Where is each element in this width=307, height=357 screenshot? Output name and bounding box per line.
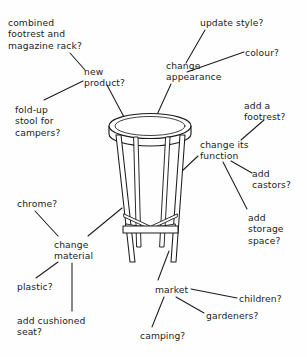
stool-footrest-bar	[123, 226, 178, 233]
node-gardeners[interactable]: gardeners?	[206, 310, 276, 321]
node-combined-footrest[interactable]: combined footrest and magazine rack?	[8, 17, 108, 51]
node-children[interactable]: children?	[239, 293, 301, 304]
node-change-material[interactable]: change material	[54, 239, 114, 262]
node-add-storage-space[interactable]: add storage space?	[248, 212, 303, 246]
node-plastic[interactable]: plastic?	[17, 281, 72, 292]
stool-leg-front-right	[171, 135, 185, 262]
node-chrome[interactable]: chrome?	[17, 198, 77, 209]
mindmap-canvas: combined footrest and magazine rack? new…	[0, 0, 307, 357]
stool-leg-front-left	[116, 135, 135, 262]
node-colour[interactable]: colour?	[245, 47, 300, 58]
node-add-a-footrest[interactable]: add a footrest?	[244, 100, 304, 123]
node-camping[interactable]: camping?	[140, 330, 200, 341]
node-market[interactable]: market	[155, 284, 205, 295]
node-change-its-function[interactable]: change its function	[200, 139, 266, 162]
node-new-product[interactable]: new product?	[84, 66, 144, 89]
node-fold-up-stool[interactable]: fold-up stool for campers?	[15, 104, 85, 138]
node-add-castors[interactable]: add castors?	[252, 168, 307, 191]
node-add-cushioned-seat[interactable]: add cushioned seat?	[17, 315, 122, 338]
node-change-appearance[interactable]: change appearance	[166, 60, 236, 83]
node-update-style[interactable]: update style?	[200, 17, 280, 28]
